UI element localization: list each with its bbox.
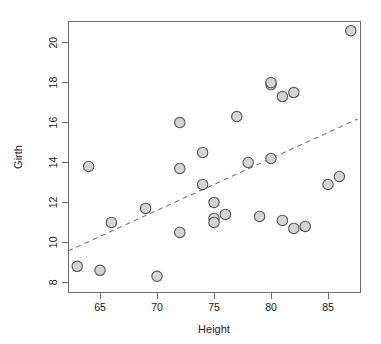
data-point <box>140 203 150 213</box>
y-tick-label: 8 <box>47 279 59 285</box>
data-point <box>289 223 299 233</box>
data-point <box>323 179 333 189</box>
x-tick-label: 70 <box>151 301 163 313</box>
x-tick-label: 65 <box>94 301 106 313</box>
y-tick-label: 18 <box>47 77 59 89</box>
data-point <box>254 211 264 221</box>
data-point <box>95 265 105 275</box>
data-point <box>197 179 207 189</box>
y-tick-label: 14 <box>47 156 59 168</box>
data-point <box>266 77 276 87</box>
data-point <box>83 161 93 171</box>
x-axis-title: Height <box>198 323 230 335</box>
data-point <box>197 147 207 157</box>
data-point <box>277 91 287 101</box>
data-point <box>243 157 253 167</box>
data-point <box>232 111 242 121</box>
x-tick-label: 75 <box>208 301 220 313</box>
data-point <box>175 117 185 127</box>
y-axis-title: Girth <box>12 145 24 169</box>
data-point <box>277 215 287 225</box>
y-tick-label: 10 <box>47 236 59 248</box>
data-point <box>152 271 162 281</box>
data-point <box>72 261 82 271</box>
y-tick-label: 12 <box>47 196 59 208</box>
data-point <box>266 153 276 163</box>
y-tick-label: 16 <box>47 117 59 129</box>
data-point <box>209 197 219 207</box>
chart-canvas: 8101214161820 6570758085 Height Girth <box>0 0 381 344</box>
data-point <box>300 221 310 231</box>
data-point <box>106 217 116 227</box>
data-point <box>346 25 356 35</box>
scatter-plot-figure: 8101214161820 6570758085 Height Girth <box>0 0 381 344</box>
x-tick-label: 85 <box>322 301 334 313</box>
y-tick-label: 20 <box>47 37 59 49</box>
data-point <box>175 163 185 173</box>
data-point <box>209 217 219 227</box>
data-point <box>220 209 230 219</box>
data-point <box>334 171 344 181</box>
data-point <box>175 227 185 237</box>
x-tick-label: 80 <box>265 301 277 313</box>
data-point <box>289 87 299 97</box>
